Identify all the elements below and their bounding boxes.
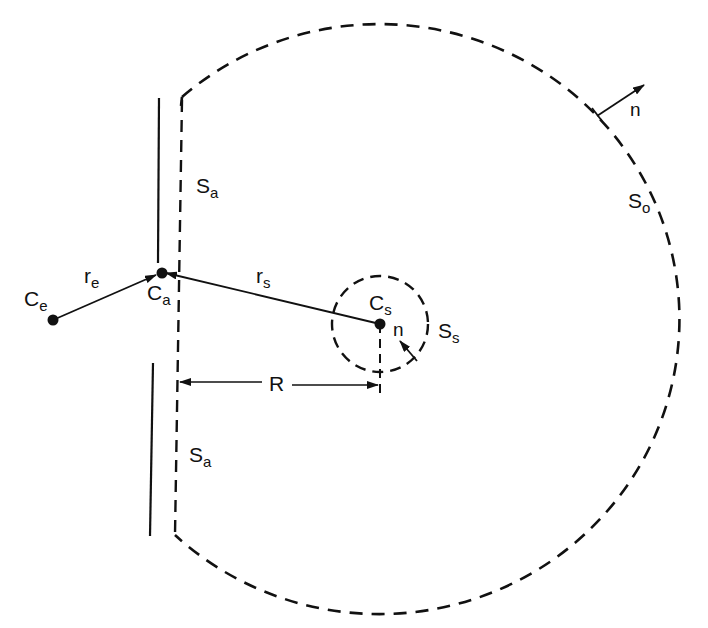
label-n-inner: n	[393, 320, 404, 339]
aperture-wall-lower	[150, 363, 153, 536]
vector-re	[53, 275, 156, 320]
label-sa-upper: Sa	[196, 175, 218, 200]
label-rs: rs	[256, 265, 271, 290]
point-ca	[157, 268, 168, 279]
label-r: R	[269, 373, 284, 394]
point-cs	[375, 319, 386, 330]
label-so: So	[628, 190, 650, 215]
label-ss: Ss	[438, 320, 460, 345]
aperture-surface-sa	[175, 100, 182, 535]
diagram-canvas: Ce Ca Cs re rs R n n Sa Sa So Ss	[0, 0, 708, 628]
normal-inner-vector	[400, 341, 417, 361]
aperture-wall-upper	[158, 98, 159, 263]
label-sa-lower: Sa	[189, 444, 211, 469]
label-ca: Ca	[147, 282, 171, 307]
point-ce	[48, 315, 59, 326]
vector-rs	[166, 273, 380, 324]
label-ce: Ce	[24, 288, 48, 313]
label-re: re	[84, 265, 99, 290]
label-cs: Cs	[369, 292, 392, 317]
label-n-outer: n	[630, 100, 641, 119]
diagram-svg	[0, 0, 708, 628]
